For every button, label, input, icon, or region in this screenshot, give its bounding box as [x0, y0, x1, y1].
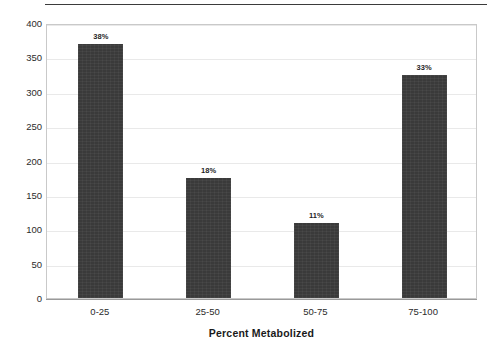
bar-value-label: 33%: [417, 63, 432, 72]
x-tick-label: 0-25: [55, 306, 145, 317]
bar-value-label: 11%: [309, 211, 324, 220]
y-tick-label: 250: [16, 122, 42, 132]
y-axis-tick-labels: 400350300250200150100500: [14, 0, 42, 350]
bar-group: 18%: [186, 23, 231, 298]
x-tick-label: 75-100: [378, 306, 468, 317]
x-tick-label: 50-75: [270, 306, 360, 317]
bar: [186, 178, 231, 298]
bars-layer: 38%18%11%33%: [47, 25, 476, 298]
y-tick-label: 300: [16, 88, 42, 98]
y-tick-label: 350: [16, 53, 42, 63]
y-tick-label: 100: [16, 225, 42, 235]
bar-group: 33%: [402, 23, 447, 298]
y-tick-label: 150: [16, 191, 42, 201]
bar: [294, 223, 339, 298]
x-axis-tick-labels: 0-2525-5050-7575-100: [46, 306, 477, 322]
bar-chart-figure: Number of Compounds 40035030025020015010…: [0, 0, 497, 350]
x-axis-title: Percent Metabolized: [46, 327, 477, 339]
bar: [78, 44, 123, 298]
y-tick-label: 400: [16, 19, 42, 29]
y-tick-label: 0: [16, 294, 42, 304]
plot-area: 38%18%11%33%: [46, 24, 477, 299]
y-tick-label: 200: [16, 157, 42, 167]
y-tick-label: 50: [16, 260, 42, 270]
bar-value-label: 18%: [201, 166, 216, 175]
x-tick-label: 25-50: [163, 306, 253, 317]
top-divider-rule: [45, 4, 487, 5]
bar-value-label: 38%: [93, 32, 108, 41]
bar-group: 11%: [294, 23, 339, 298]
x-axis-baseline: [46, 299, 477, 300]
bar: [402, 75, 447, 298]
bar-group: 38%: [78, 23, 123, 298]
